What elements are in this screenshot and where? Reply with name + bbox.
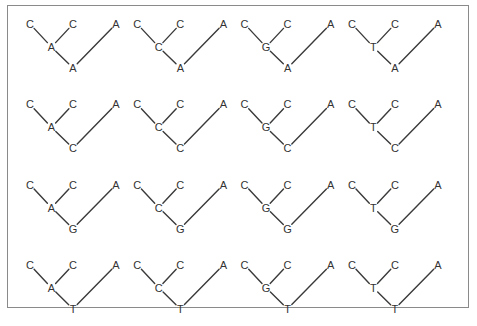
- leaf-label: C: [284, 179, 292, 191]
- leaf-label: C: [69, 18, 77, 30]
- leaf-label: C: [284, 18, 292, 30]
- tree-edge: [163, 28, 176, 42]
- tree-6: CCACC: [133, 98, 227, 154]
- tree-edge: [34, 28, 47, 42]
- internal-node-label: C: [155, 121, 163, 133]
- root-node-label: G: [283, 223, 292, 235]
- leaf-label: A: [434, 98, 442, 110]
- tree-edge: [270, 131, 283, 144]
- tree-edge: [77, 189, 112, 224]
- internal-node-label: C: [155, 282, 163, 294]
- leaf-label: C: [241, 259, 249, 271]
- root-node-label: G: [391, 223, 400, 235]
- internal-node-label: A: [48, 41, 56, 53]
- tree-edge: [356, 28, 369, 42]
- leaf-label: C: [348, 259, 356, 271]
- leaf-label: C: [26, 98, 34, 110]
- tree-edge: [56, 189, 69, 203]
- root-node-label: C: [284, 142, 292, 154]
- leaf-label: C: [26, 18, 34, 30]
- tree-edge: [378, 212, 391, 225]
- leaf-label: A: [112, 179, 120, 191]
- tree-2: CCACA: [133, 18, 227, 74]
- tree-edge: [378, 292, 391, 305]
- root-node-label: T: [284, 303, 291, 315]
- internal-node-label: T: [370, 121, 377, 133]
- tree-edge: [141, 28, 154, 42]
- root-node-label: A: [284, 62, 292, 74]
- leaf-label: C: [26, 259, 34, 271]
- tree-edge: [270, 28, 283, 42]
- tree-edge: [141, 189, 154, 203]
- cropped-caption: [0, 318, 477, 326]
- leaf-label: C: [348, 98, 356, 110]
- tree-edge: [141, 269, 154, 283]
- internal-node-label: T: [370, 202, 377, 214]
- leaf-label: A: [220, 259, 228, 271]
- tree-5: CCAAC: [26, 98, 120, 154]
- root-node-label: C: [69, 142, 77, 154]
- tree-edge: [249, 269, 262, 283]
- leaf-label: C: [241, 179, 249, 191]
- tree-edge: [163, 51, 176, 64]
- leaf-label: A: [327, 259, 335, 271]
- tree-edge: [270, 51, 283, 64]
- tree-edge: [56, 131, 69, 144]
- leaf-label: A: [327, 179, 335, 191]
- internal-node-label: T: [370, 41, 377, 53]
- tree-14: CCACT: [133, 259, 227, 315]
- tree-edge: [399, 28, 434, 63]
- leaf-label: A: [434, 18, 442, 30]
- tree-edge: [184, 189, 219, 224]
- root-node-label: T: [392, 303, 399, 315]
- root-node-label: A: [391, 62, 399, 74]
- leaf-label: C: [391, 259, 399, 271]
- tree-edge: [56, 51, 69, 64]
- internal-node-label: G: [262, 202, 271, 214]
- tree-edge: [356, 109, 369, 123]
- leaf-label: C: [348, 18, 356, 30]
- tree-edge: [377, 189, 390, 203]
- root-node-label: T: [177, 303, 184, 315]
- tree-edge: [163, 212, 176, 225]
- tree-edge: [163, 131, 176, 144]
- leaf-label: C: [176, 98, 184, 110]
- leaf-label: C: [241, 98, 249, 110]
- leaf-label: C: [284, 98, 292, 110]
- leaf-label: A: [220, 98, 228, 110]
- tree-edge: [356, 269, 369, 283]
- tree-edge: [377, 28, 390, 42]
- tree-12: CCATG: [348, 179, 442, 235]
- leaf-label: A: [327, 18, 335, 30]
- tree-4: CCATA: [348, 18, 442, 74]
- internal-node-label: C: [155, 41, 163, 53]
- tree-edge: [292, 189, 327, 224]
- tree-3: CCAGA: [241, 18, 335, 74]
- tree-11: CCAGG: [241, 179, 335, 235]
- tree-edge: [292, 269, 327, 304]
- leaf-label: A: [434, 259, 442, 271]
- tree-edge: [163, 189, 176, 203]
- leaf-label: C: [391, 98, 399, 110]
- tree-edge: [184, 109, 219, 144]
- root-node-label: G: [176, 223, 185, 235]
- leaf-label: C: [69, 259, 77, 271]
- leaf-label: A: [220, 18, 228, 30]
- tree-edge: [399, 189, 434, 224]
- tree-edge: [377, 109, 390, 123]
- leaf-label: C: [26, 179, 34, 191]
- internal-node-label: T: [370, 282, 377, 294]
- tree-13: CCAAT: [26, 259, 120, 315]
- tree-9: CCAAG: [26, 179, 120, 235]
- tree-edge: [378, 51, 391, 64]
- tree-edge: [77, 109, 112, 144]
- tree-edge: [56, 28, 69, 42]
- leaf-label: C: [391, 179, 399, 191]
- leaf-label: A: [220, 179, 228, 191]
- tree-grid: CCAAACCACACCAGACCATACCAACCCACCCCAGCCCATC…: [0, 0, 477, 326]
- tree-8: CCATC: [348, 98, 442, 154]
- leaf-label: A: [112, 259, 120, 271]
- tree-edge: [77, 28, 112, 63]
- tree-edge: [377, 269, 390, 283]
- tree-edge: [249, 109, 262, 123]
